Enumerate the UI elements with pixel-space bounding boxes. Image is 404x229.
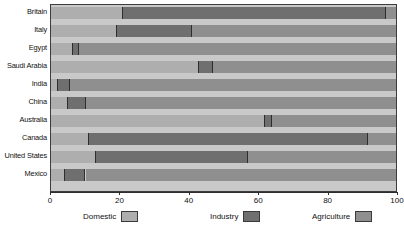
legend-label: Agriculture	[312, 212, 350, 221]
bar-row	[51, 79, 396, 91]
x-tick-label: 0	[48, 196, 52, 205]
bar-segment-agriculture	[213, 61, 396, 73]
bar-segment-agriculture	[248, 151, 396, 163]
bar-series-container	[51, 5, 396, 191]
bar-segment-industry	[96, 151, 248, 163]
bar-row	[51, 169, 396, 181]
bar-segment-agriculture	[70, 79, 396, 91]
bar-row	[51, 133, 396, 145]
bar-row	[51, 25, 396, 37]
category-label: India	[0, 80, 47, 88]
bar-segment-agriculture	[79, 43, 396, 55]
x-tick-label: 40	[184, 196, 193, 205]
bar-row	[51, 43, 396, 55]
bar-segment-agriculture	[86, 169, 397, 181]
bar-segment-domestic	[51, 133, 89, 145]
category-label: Saudi Arabia	[0, 62, 47, 70]
bar-segment-domestic	[51, 79, 58, 91]
bar-segment-domestic	[51, 97, 68, 109]
bar-segment-agriculture	[192, 25, 396, 37]
category-label: Canada	[0, 134, 47, 142]
legend-item-industry[interactable]: Industry	[210, 210, 260, 223]
legend-label: Domestic	[83, 212, 116, 221]
bar-segment-domestic	[51, 115, 265, 127]
bar-segment-agriculture	[386, 7, 396, 19]
legend-item-domestic[interactable]: Domestic	[83, 210, 138, 223]
bar-segment-domestic	[51, 169, 65, 181]
bar-segment-domestic	[51, 7, 123, 19]
x-tick-label: 20	[115, 196, 124, 205]
x-tick	[258, 192, 259, 195]
legend-swatch-industry	[243, 211, 260, 222]
x-tick	[189, 192, 190, 195]
bar-segment-industry	[58, 79, 70, 91]
bar-segment-agriculture	[368, 133, 396, 145]
bar-segment-industry	[68, 97, 85, 109]
x-tick-label: 100	[390, 196, 403, 205]
bar-segment-domestic	[51, 25, 117, 37]
legend-item-agriculture[interactable]: Agriculture	[312, 210, 372, 223]
category-label: Egypt	[0, 44, 47, 52]
bar-segment-domestic	[51, 43, 73, 55]
bar-segment-industry	[123, 7, 385, 19]
bar-segment-domestic	[51, 151, 96, 163]
bar-segment-industry	[265, 115, 272, 127]
x-tick-label: 60	[254, 196, 263, 205]
x-tick	[119, 192, 120, 195]
x-tick	[50, 192, 51, 195]
bar-segment-industry	[65, 169, 86, 181]
x-tick	[397, 192, 398, 195]
bar-row	[51, 97, 396, 109]
category-label: Italy	[0, 26, 47, 34]
chart-legend: DomesticIndustryAgriculture	[50, 210, 397, 225]
legend-swatch-domestic	[121, 211, 138, 222]
x-tick-label: 80	[323, 196, 332, 205]
bar-segment-industry	[117, 25, 193, 37]
category-label: Mexico	[0, 170, 47, 178]
bar-segment-industry	[89, 133, 368, 145]
bar-row	[51, 151, 396, 163]
category-label: Australia	[0, 116, 47, 124]
bar-segment-industry	[199, 61, 213, 73]
bar-segment-agriculture	[86, 97, 397, 109]
category-label: China	[0, 98, 47, 106]
category-axis-labels: BritainItalyEgyptSaudi ArabiaIndiaChinaA…	[0, 4, 47, 192]
bar-row	[51, 61, 396, 73]
category-label: United States	[0, 152, 47, 160]
x-tick	[328, 192, 329, 195]
legend-swatch-agriculture	[355, 211, 372, 222]
bar-segment-agriculture	[272, 115, 396, 127]
category-label: Britain	[0, 8, 47, 16]
legend-label: Industry	[210, 212, 238, 221]
x-axis-line	[50, 192, 397, 193]
bar-row	[51, 115, 396, 127]
bar-segment-domestic	[51, 61, 199, 73]
bar-row	[51, 7, 396, 19]
